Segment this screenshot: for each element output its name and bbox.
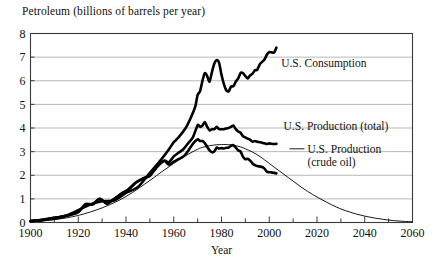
chart-plot-area: 012345678 190019201940196019802000202020… xyxy=(0,0,438,270)
y-tick-label: 1 xyxy=(20,192,26,206)
y-tick-label: 2 xyxy=(20,168,26,182)
y-axis-tick-labels: 012345678 xyxy=(20,27,26,230)
x-tick-label: 1960 xyxy=(162,226,186,240)
y-tick-label: 7 xyxy=(20,50,26,64)
y-tick-label: 5 xyxy=(20,98,26,112)
x-tick-label: 2000 xyxy=(257,226,281,240)
x-tick-label: 2020 xyxy=(305,226,329,240)
y-tick-label: 8 xyxy=(20,27,26,41)
series-annotation-label: (crude oil) xyxy=(307,156,355,169)
x-major-ticks-group xyxy=(31,217,413,223)
x-tick-label: 1920 xyxy=(66,226,90,240)
series-annotation-label: U.S. Consumption xyxy=(281,57,367,70)
series-annotation-label: U.S. Production xyxy=(307,143,381,155)
y-tick-label: 6 xyxy=(20,74,26,88)
series-line xyxy=(31,48,277,221)
x-axis-tick-labels: 190019201940196019802000202020402060 xyxy=(19,226,425,240)
data-series-group xyxy=(31,48,413,222)
petroleum-chart-figure: Petroleum (billions of barrels per year)… xyxy=(0,0,438,270)
series-annotation-label: U.S. Production (total) xyxy=(284,120,389,133)
x-axis-title: Year xyxy=(211,244,232,256)
x-tick-label: 1900 xyxy=(19,226,43,240)
x-tick-label: 2060 xyxy=(401,226,425,240)
y-tick-label: 4 xyxy=(20,121,26,135)
y-tick-label: 3 xyxy=(20,145,26,159)
y-tick-marks-group xyxy=(31,34,35,223)
x-tick-label: 2040 xyxy=(353,226,377,240)
x-tick-label: 1940 xyxy=(114,226,138,240)
x-tick-label: 1980 xyxy=(210,226,234,240)
